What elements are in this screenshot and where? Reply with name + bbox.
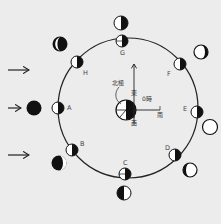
position-label-c: C	[123, 160, 128, 167]
north-pole-label: 北極	[112, 80, 124, 86]
time-label: 0時	[142, 96, 152, 102]
position-label-b: B	[80, 141, 84, 148]
moon-on-orbit-g-icon	[116, 35, 128, 47]
position-label-h: H	[83, 70, 88, 77]
compass-east-label: 東	[131, 90, 137, 96]
full-moon-icon	[203, 120, 218, 135]
moon-on-orbit-b-icon	[66, 144, 78, 156]
moon-on-orbit-a-icon	[52, 102, 64, 114]
moon-on-orbit-c-icon	[119, 168, 131, 180]
first-quarter-moon-icon	[117, 186, 131, 200]
waxing-gibbous-moon-icon	[183, 163, 197, 177]
position-label-g: G	[120, 50, 125, 57]
position-label-f: F	[167, 71, 171, 78]
new-moon-icon	[27, 101, 42, 116]
sunlight-arrows	[8, 70, 29, 155]
compass-south-label: 南	[157, 112, 163, 118]
diagram-canvas	[0, 0, 221, 224]
compass-west-label: 西	[131, 120, 137, 126]
moon-phase-diagram: A B C D E F G H 北極 東 0時 南 西	[0, 0, 221, 224]
moon-on-orbit-f-icon	[174, 58, 186, 70]
position-label-d: D	[165, 145, 170, 152]
moon-on-orbit-e-icon	[191, 106, 203, 118]
last-quarter-moon-icon	[114, 16, 128, 30]
waning-gibbous-moon-icon	[194, 45, 208, 59]
moon-on-orbit-h-icon	[71, 56, 83, 68]
waxing-crescent-moon-icon	[52, 156, 67, 171]
position-label-e: E	[183, 106, 187, 113]
earth-icon	[116, 100, 136, 120]
moon-on-orbit-d-icon	[169, 149, 181, 161]
position-label-a: A	[67, 105, 71, 112]
waning-crescent-moon-icon	[53, 37, 68, 52]
